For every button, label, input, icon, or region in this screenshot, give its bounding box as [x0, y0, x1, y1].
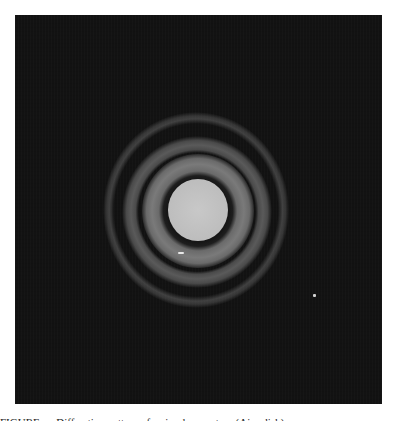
- dust-speck: [178, 252, 184, 254]
- dust-speck: [313, 294, 316, 297]
- figure-caption: FIGURE — Diffraction pattern of a circul…: [0, 415, 397, 421]
- caption-text: FIGURE — Diffraction pattern of a circul…: [0, 416, 397, 421]
- diffraction-photograph: [15, 15, 382, 404]
- central-airy-disk: [168, 179, 228, 241]
